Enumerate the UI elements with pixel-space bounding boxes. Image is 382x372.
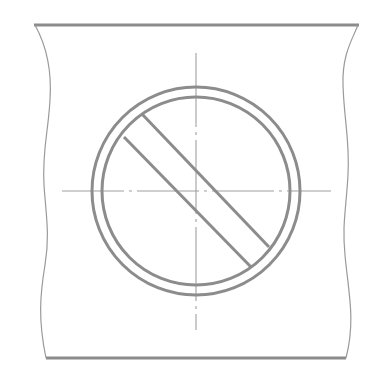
background bbox=[0, 0, 382, 372]
pipe-section-diagram bbox=[0, 0, 382, 372]
